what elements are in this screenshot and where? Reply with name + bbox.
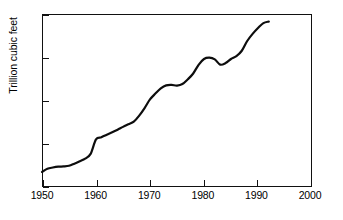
x-tick-label-1970: 1970 <box>138 190 161 201</box>
x-tick-1950 <box>43 180 44 186</box>
x-tick-label-1950: 1950 <box>31 190 54 201</box>
plot-area <box>42 14 312 187</box>
y-tick-0 <box>43 187 49 188</box>
y-tick-80 <box>43 15 49 16</box>
x-tick-label-1990: 1990 <box>245 190 268 201</box>
y-axis-title: Trillion cubic feet <box>8 0 19 121</box>
x-tick-2000 <box>311 180 312 186</box>
x-tick-label-1980: 1980 <box>192 190 215 201</box>
x-tick-1970 <box>150 180 151 186</box>
y-tick-20 <box>43 144 49 145</box>
x-tick-1960 <box>97 180 98 186</box>
x-tick-1980 <box>204 180 205 186</box>
x-tick-label-1960: 1960 <box>84 190 107 201</box>
chart-container: Trillion cubic feet 80 60 40 20 0 1950 1… <box>0 0 343 220</box>
y-tick-60 <box>43 58 49 59</box>
x-tick-1990 <box>257 180 258 186</box>
y-tick-40 <box>43 101 49 102</box>
x-tick-label-2000: 2000 <box>299 190 322 201</box>
